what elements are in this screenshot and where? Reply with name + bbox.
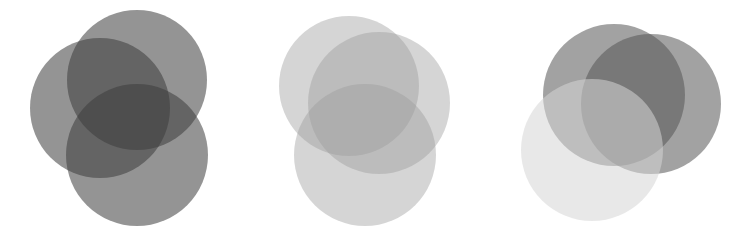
- dark-venn-circle-3: [66, 84, 208, 226]
- venn-group-light: [279, 16, 450, 226]
- venn-group-mixed: [521, 24, 721, 221]
- light-venn-circle-3: [294, 84, 436, 226]
- venn-diagram-figure: [0, 0, 742, 242]
- venn-diagrams-canvas: [0, 0, 742, 242]
- mixed-venn-circle-3: [521, 79, 663, 221]
- venn-group-dark: [30, 10, 208, 226]
